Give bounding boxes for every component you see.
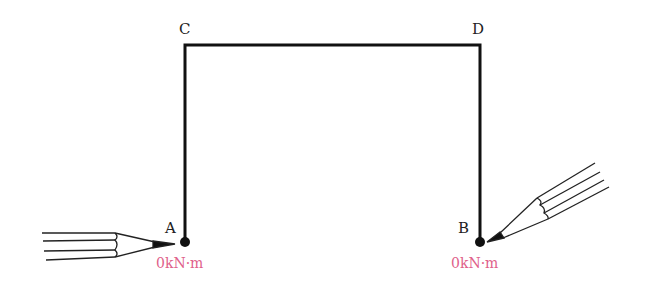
node-label-b: B bbox=[458, 219, 469, 237]
moment-a: 0kN·m bbox=[156, 255, 203, 271]
moment-b: 0kN·m bbox=[451, 255, 498, 271]
support-b bbox=[475, 237, 485, 247]
pencil-right-icon bbox=[487, 163, 609, 242]
node-label-c: C bbox=[179, 20, 190, 38]
node-label-a: A bbox=[165, 219, 176, 237]
node-label-d: D bbox=[472, 20, 484, 38]
frame-diagram bbox=[0, 0, 647, 290]
support-a bbox=[180, 237, 190, 247]
portal-frame bbox=[185, 45, 480, 242]
